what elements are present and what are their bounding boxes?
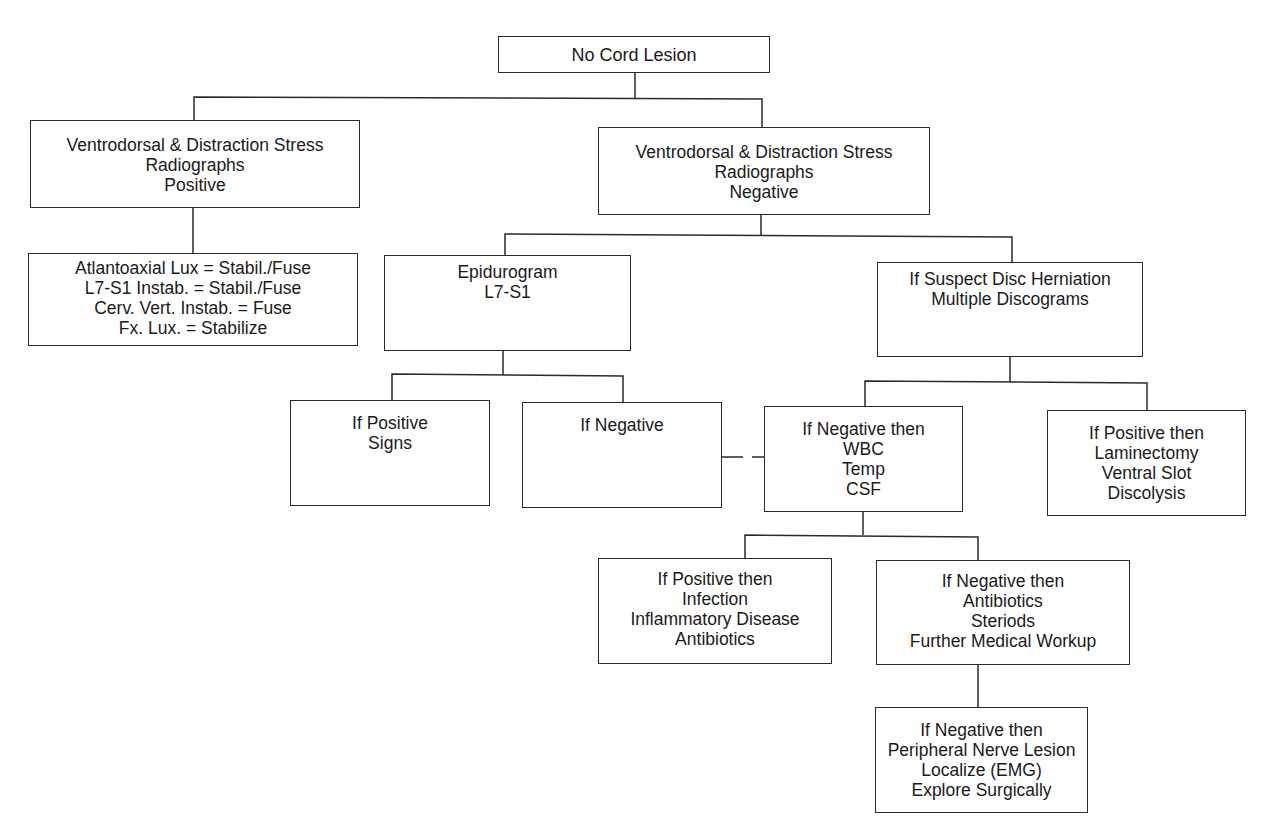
- node-disc-herniation: If Suspect Disc Herniation Multiple Disc…: [877, 262, 1143, 357]
- node-text: Peripheral Nerve Lesion: [876, 740, 1087, 760]
- node-text: If Negative then: [765, 419, 962, 439]
- node-radiographs-positive: Ventrodorsal & Distraction Stress Radiog…: [30, 120, 360, 208]
- node-text: Ventrodorsal & Distraction Stress: [31, 135, 359, 155]
- node-text: Radiographs: [31, 155, 359, 175]
- node-negative-wbc: If Negative then WBC Temp CSF: [764, 406, 963, 512]
- node-text: Ventrodorsal & Distraction Stress: [599, 142, 929, 162]
- node-text: Inflammatory Disease: [599, 609, 831, 629]
- node-text: Signs: [291, 433, 489, 453]
- node-text: CSF: [765, 479, 962, 499]
- node-text: Discolysis: [1048, 483, 1245, 503]
- node-text: If Positive then: [1048, 423, 1245, 443]
- node-text: Negative: [599, 182, 929, 202]
- node-radiographs-negative: Ventrodorsal & Distraction Stress Radiog…: [598, 127, 930, 215]
- node-negative-peripheral: If Negative then Peripheral Nerve Lesion…: [875, 707, 1088, 813]
- node-text: Infection: [599, 589, 831, 609]
- node-positive-signs: If Positive Signs: [290, 400, 490, 506]
- node-no-cord-lesion: No Cord Lesion: [498, 36, 770, 73]
- node-text: If Positive: [291, 413, 489, 433]
- node-text: Epidurogram: [385, 262, 630, 282]
- node-text: If Negative then: [877, 571, 1129, 591]
- node-text: Cerv. Vert. Instab. = Fuse: [29, 298, 357, 318]
- node-text: Multiple Discograms: [878, 289, 1142, 309]
- node-text: Radiographs: [599, 162, 929, 182]
- node-text: Further Medical Workup: [877, 631, 1129, 651]
- node-text: Explore Surgically: [876, 780, 1087, 800]
- node-text: If Suspect Disc Herniation: [878, 269, 1142, 289]
- node-text: Fx. Lux. = Stabilize: [29, 318, 357, 338]
- node-text: Ventral Slot: [1048, 463, 1245, 483]
- node-text: No Cord Lesion: [499, 45, 769, 65]
- node-text: Positive: [31, 175, 359, 195]
- node-text: If Negative: [523, 415, 721, 435]
- node-text: Temp: [765, 459, 962, 479]
- node-positive-infection: If Positive then Infection Inflammatory …: [598, 558, 832, 664]
- flowchart-canvas: No Cord Lesion Ventrodorsal & Distractio…: [0, 0, 1265, 833]
- node-text: Antibiotics: [599, 629, 831, 649]
- node-text: Localize (EMG): [876, 760, 1087, 780]
- node-text: L7-S1: [385, 282, 630, 302]
- node-if-negative: If Negative: [522, 402, 722, 508]
- node-treatments: Atlantoaxial Lux = Stabil./Fuse L7-S1 In…: [28, 253, 358, 346]
- node-text: WBC: [765, 439, 962, 459]
- node-text: If Positive then: [599, 569, 831, 589]
- node-positive-laminectomy: If Positive then Laminectomy Ventral Slo…: [1047, 410, 1246, 516]
- node-text: Atlantoaxial Lux = Stabil./Fuse: [29, 258, 357, 278]
- node-text: If Negative then: [876, 720, 1087, 740]
- node-text: Steriods: [877, 611, 1129, 631]
- node-text: L7-S1 Instab. = Stabil./Fuse: [29, 278, 357, 298]
- node-text: Laminectomy: [1048, 443, 1245, 463]
- node-epidurogram: Epidurogram L7-S1: [384, 255, 631, 351]
- node-negative-antibiotics: If Negative then Antibiotics Steriods Fu…: [876, 560, 1130, 665]
- node-text: Antibiotics: [877, 591, 1129, 611]
